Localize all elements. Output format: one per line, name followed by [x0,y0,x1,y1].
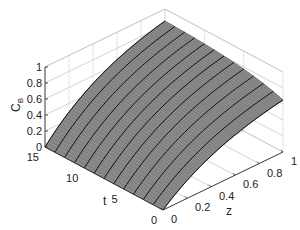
t-axis-label: t [103,194,107,208]
z-tick-label: 0 [171,213,177,225]
cb-axis-label: CB [9,98,25,112]
t-tick-label: 15 [27,151,39,163]
cb-tick-label: 0.2 [27,125,42,137]
z-tick-label: 0.2 [195,201,210,213]
surface-plot: 00.20.40.60.8105101500.20.40.60.81 z t C… [0,0,300,230]
cb-tick-label: 0.4 [27,109,42,121]
z-axis-label: z [226,204,232,218]
t-tick-label: 10 [66,172,78,184]
t-tick-label: 5 [112,193,118,205]
z-tick-label: 0.8 [267,167,282,179]
cb-tick-label: 1 [36,61,42,73]
z-tick-label: 0.6 [243,178,258,190]
z-tick-label: 0.4 [219,190,234,202]
svg-text:CB: CB [9,98,25,112]
t-tick-label: 0 [151,214,157,226]
cb-tick-label: 0.8 [27,77,42,89]
z-tick-label: 1 [291,155,297,167]
cb-tick-label: 0.6 [27,93,42,105]
